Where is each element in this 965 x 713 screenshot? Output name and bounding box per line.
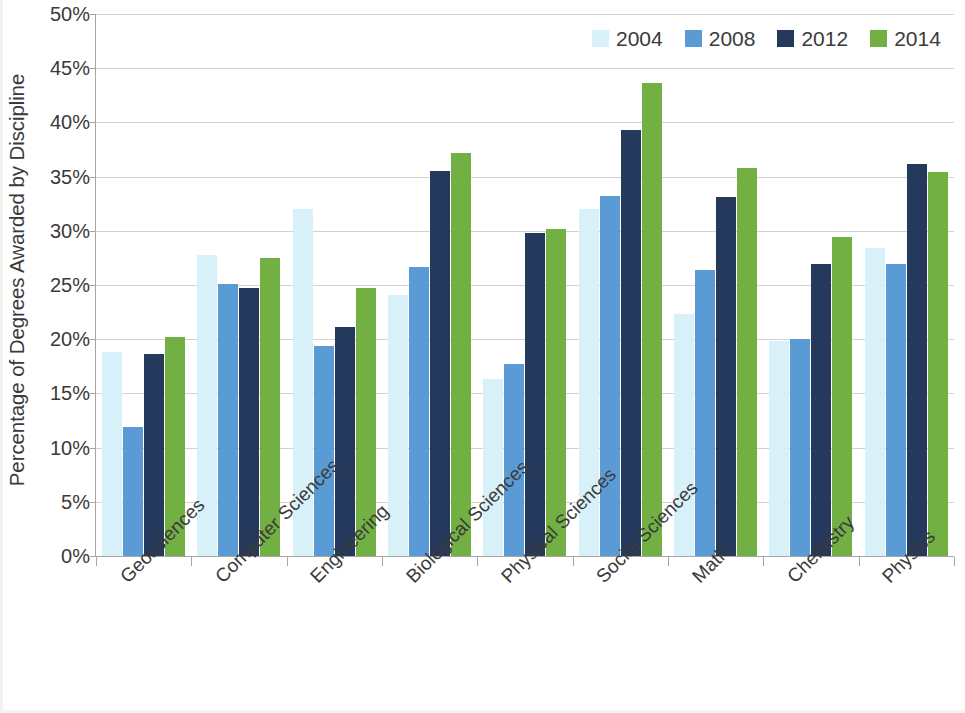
- bar-2004[interactable]: [102, 352, 122, 556]
- legend-item-2008[interactable]: 2008: [685, 28, 756, 49]
- legend-swatch-icon: [777, 30, 794, 47]
- y-axis-tick-label: 25%: [32, 274, 90, 297]
- y-axis-tick-mark: [90, 339, 96, 340]
- y-axis-tick-mark: [90, 393, 96, 394]
- legend-label: 2008: [709, 28, 756, 49]
- x-axis-tick-mark: [191, 557, 192, 566]
- bar-2008[interactable]: [695, 270, 715, 556]
- bar-2012[interactable]: [811, 264, 831, 556]
- y-axis-tick-labels: 50%45%40%35%30%25%20%15%10%5%0%: [30, 14, 90, 556]
- bar-group: [573, 14, 668, 556]
- bar-2008[interactable]: [600, 196, 620, 556]
- y-axis-tick-label: 45%: [32, 57, 90, 80]
- y-axis-title-text: Percentage of Degrees Awarded by Discipl…: [5, 74, 29, 486]
- chart-legend: 2004200820122014: [592, 28, 941, 49]
- y-axis-tick-label: 30%: [32, 219, 90, 242]
- y-axis-tick-mark: [90, 177, 96, 178]
- bar-2008[interactable]: [409, 267, 429, 556]
- bar-2014[interactable]: [737, 168, 757, 556]
- x-axis-tick-mark: [859, 557, 860, 566]
- legend-swatch-icon: [592, 30, 609, 47]
- bar-group: [668, 14, 763, 556]
- bar-2008[interactable]: [790, 339, 810, 556]
- bar-2012[interactable]: [907, 164, 927, 556]
- legend-item-2004[interactable]: 2004: [592, 28, 663, 49]
- bar-2004[interactable]: [483, 379, 503, 556]
- legend-label: 2012: [801, 28, 848, 49]
- legend-swatch-icon: [870, 30, 887, 47]
- bar-2014[interactable]: [928, 172, 948, 556]
- bar-2008[interactable]: [886, 264, 906, 556]
- x-axis-tick-mark: [477, 557, 478, 566]
- y-axis-tick-mark: [90, 14, 96, 15]
- bar-group: [859, 14, 954, 556]
- y-axis-tick-label: 35%: [32, 165, 90, 188]
- y-axis-tick-mark: [90, 285, 96, 286]
- legend-label: 2014: [894, 28, 941, 49]
- bar-2004[interactable]: [674, 314, 694, 556]
- bar-2012[interactable]: [430, 171, 450, 556]
- y-axis-tick-label: 10%: [32, 436, 90, 459]
- bar-2014[interactable]: [642, 83, 662, 556]
- y-axis-tick-label: 50%: [32, 3, 90, 26]
- x-axis-tick-mark: [763, 557, 764, 566]
- legend-label: 2004: [616, 28, 663, 49]
- y-axis-title: Percentage of Degrees Awarded by Discipl…: [0, 0, 34, 560]
- bar-2008[interactable]: [314, 346, 334, 556]
- chart-page: Percentage of Degrees Awarded by Discipl…: [0, 0, 965, 713]
- x-axis-tick-mark: [382, 557, 383, 566]
- y-axis-tick-label: 0%: [32, 545, 90, 568]
- x-axis-tick-mark: [96, 557, 97, 566]
- bar-2012[interactable]: [716, 197, 736, 556]
- bar-2012[interactable]: [335, 327, 355, 556]
- x-axis-tick-mark: [287, 557, 288, 566]
- bar-2012[interactable]: [621, 130, 641, 556]
- bar-2014[interactable]: [832, 237, 852, 556]
- x-axis-tick-mark: [954, 557, 955, 566]
- y-axis-tick-label: 5%: [32, 490, 90, 513]
- y-axis-tick-mark: [90, 68, 96, 69]
- bar-group: [96, 14, 191, 556]
- y-axis-tick-mark: [90, 502, 96, 503]
- bar-2008[interactable]: [218, 284, 238, 556]
- bar-group: [191, 14, 286, 556]
- bar-2012[interactable]: [239, 288, 259, 556]
- x-axis-tick-mark: [668, 557, 669, 566]
- y-axis-tick-mark: [90, 231, 96, 232]
- legend-item-2012[interactable]: 2012: [777, 28, 848, 49]
- bar-group: [382, 14, 477, 556]
- bar-2004[interactable]: [769, 341, 789, 556]
- bar-2008[interactable]: [123, 427, 143, 556]
- bar-2012[interactable]: [525, 233, 545, 556]
- y-axis-tick-mark: [90, 122, 96, 123]
- y-axis-tick-label: 15%: [32, 382, 90, 405]
- legend-item-2014[interactable]: 2014: [870, 28, 941, 49]
- bar-2004[interactable]: [865, 248, 885, 556]
- bar-2014[interactable]: [451, 153, 471, 556]
- y-axis-tick-mark: [90, 448, 96, 449]
- y-axis-tick-label: 20%: [32, 328, 90, 351]
- bar-group: [763, 14, 858, 556]
- x-axis-tick-mark: [573, 557, 574, 566]
- y-axis-tick-label: 40%: [32, 111, 90, 134]
- legend-swatch-icon: [685, 30, 702, 47]
